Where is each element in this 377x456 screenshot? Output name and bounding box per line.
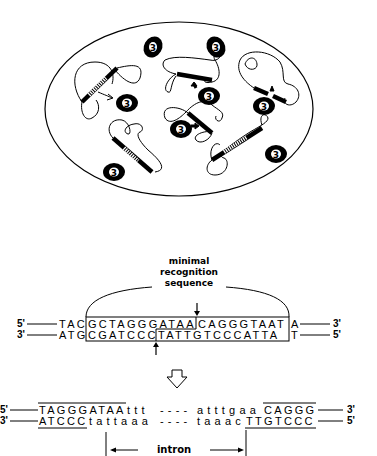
- bottom-strand-boxed-2: TATTGTCCCATTA: [158, 330, 279, 341]
- bottom-strand-boxed-1: CGATCCC: [88, 330, 158, 341]
- cell-diagram: 3 3 3 3 3 3 3 3: [0, 0, 377, 240]
- svg-text:3: 3: [150, 43, 156, 53]
- intron-bottom-3prime: 3': [0, 416, 8, 426]
- intron-label: intron: [146, 444, 202, 455]
- svg-text:3: 3: [213, 43, 219, 53]
- protein-i-scei: 3: [265, 145, 287, 163]
- dna-molecule: [163, 51, 220, 92]
- intron-bottom-exon-right: TTGTCCC: [246, 416, 315, 427]
- svg-text:3: 3: [124, 99, 130, 109]
- top-strand-5prime: 5': [17, 319, 25, 329]
- intron-top-5prime: 5': [0, 405, 8, 415]
- protein-i-scei: 3: [170, 120, 192, 138]
- svg-text:3: 3: [206, 92, 212, 102]
- protein-i-scei: 3: [203, 33, 230, 61]
- dna-molecule: [207, 115, 268, 175]
- protein-i-scei: 3: [116, 94, 138, 112]
- intron-bottom-5prime: 5': [347, 416, 355, 426]
- dna-molecule: [164, 101, 223, 142]
- bottom-strand-5prime: 5': [333, 330, 341, 340]
- svg-text:3: 3: [261, 102, 267, 112]
- intron-bottom-exon-left: ATCCC: [39, 416, 88, 427]
- protein-i-scei: 3: [198, 87, 220, 105]
- bottom-strand-flank-right: T: [291, 330, 300, 341]
- intron-bottom-gap: ----: [160, 416, 191, 427]
- svg-text:3: 3: [178, 125, 184, 135]
- svg-text:3: 3: [111, 168, 117, 178]
- protein-i-scei: 3: [103, 163, 125, 181]
- protein-i-scei: 3: [140, 33, 167, 61]
- intron-bottom-intron-left: tattaaa: [89, 416, 152, 427]
- recognition-label: minimal recognition sequence: [150, 256, 228, 289]
- svg-text:3: 3: [273, 150, 279, 160]
- protein-i-scei: 3: [253, 97, 275, 115]
- down-arrow-icon: [167, 370, 187, 388]
- bottom-strand-3prime: 3': [17, 330, 25, 340]
- bottom-strand-flank-left: ATG: [59, 330, 88, 341]
- intron-bottom-intron-right: taaac: [197, 416, 245, 427]
- intron-top-3prime: 3': [347, 405, 355, 415]
- top-strand-3prime: 3': [333, 319, 341, 329]
